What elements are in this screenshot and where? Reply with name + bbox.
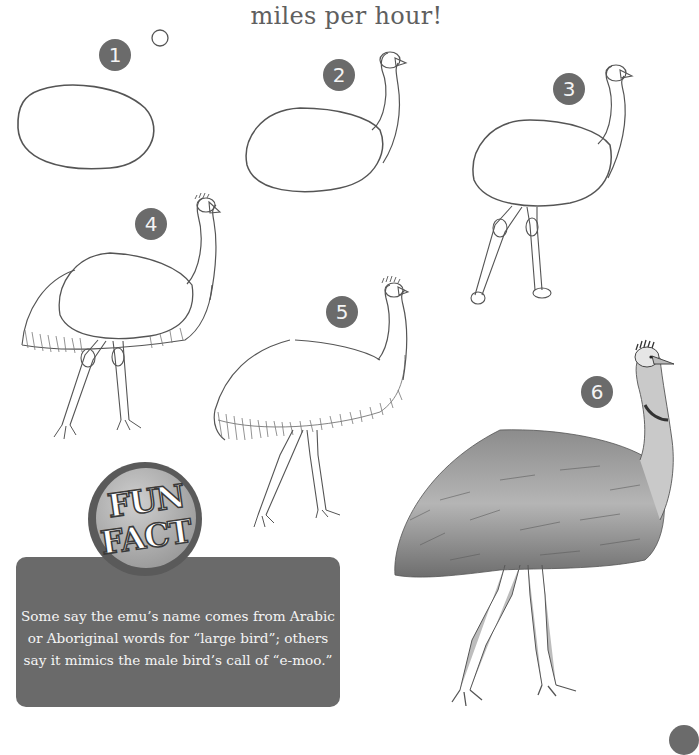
fun-fact-badge: FUN FACT	[88, 462, 202, 576]
page-number-badge	[669, 725, 699, 755]
fun-fact-text: Some say the emu’s name comes from Arabi…	[16, 605, 340, 671]
